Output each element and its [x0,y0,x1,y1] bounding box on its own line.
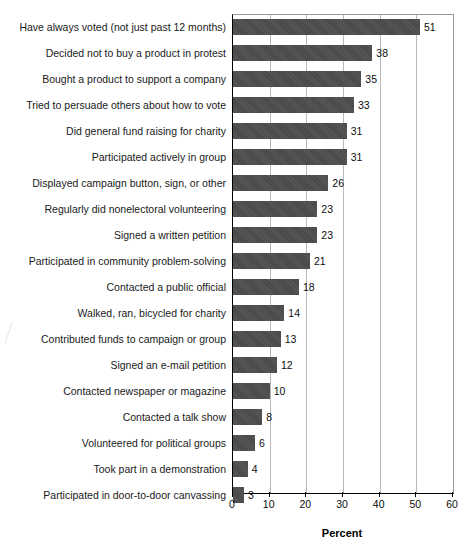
category-label: Contacted newspaper or magazine [63,378,226,404]
bar-value-label: 23 [317,227,333,243]
bar-row: Took part in a demonstration4 [0,456,476,482]
bar [233,331,281,347]
bar-container: 18 [233,279,299,295]
bar-row: Did general fund raising for charity31 [0,118,476,144]
category-label: Signed an e-mail petition [110,352,226,378]
bar-row: Contributed funds to campaign or group13 [0,326,476,352]
bar-value-label: 51 [420,19,436,35]
bar-container: 31 [233,149,347,165]
bar-container: 14 [233,305,284,321]
category-label: Contacted a talk show [123,404,226,430]
bar-row: Tried to persuade others about how to vo… [0,92,476,118]
category-label: Displayed campaign button, sign, or othe… [32,170,226,196]
bar-container: 33 [233,97,354,113]
x-tick-mark-60 [452,492,453,497]
bar-value-label: 21 [310,253,326,269]
bar [233,123,347,139]
bar-value-label: 31 [347,123,363,139]
x-axis-title: Percent [232,527,452,539]
x-tick-label: 0 [217,498,247,510]
x-tick-label: 20 [290,498,320,510]
category-label: Volunteered for political groups [82,430,226,456]
category-label: Signed a written petition [114,222,226,248]
bar [233,435,255,451]
bar-value-label: 18 [299,279,315,295]
x-tick-mark-50 [415,492,416,497]
bar [233,305,284,321]
bar-value-label: 14 [284,305,300,321]
category-label: Bought a product to support a company [42,66,226,92]
bar [233,175,328,191]
bar-container: 6 [233,435,255,451]
bar-row: Participated in community problem-solvin… [0,248,476,274]
bar-container: 13 [233,331,281,347]
category-label: Took part in a demonstration [94,456,227,482]
bar-row: Bought a product to support a company35 [0,66,476,92]
bar [233,201,317,217]
bar-value-label: 10 [270,383,286,399]
bar [233,149,347,165]
bar-value-label: 26 [328,175,344,191]
category-label: Walked, ran, bicycled for charity [78,300,226,326]
bar [233,45,372,61]
x-tick-label: 10 [254,498,284,510]
bar-container: 4 [233,461,248,477]
category-label: Participated actively in group [92,144,226,170]
bar [233,409,262,425]
bar-value-label: 13 [281,331,297,347]
bar-value-label: 35 [361,71,377,87]
bar-container: 35 [233,71,361,87]
bar-rows: Have always voted (not just past 12 mont… [0,14,476,508]
bar-row: Contacted a public official18 [0,274,476,300]
category-label: Participated in door-to-door canvassing [43,482,226,508]
bar [233,461,248,477]
bar [233,357,277,373]
category-label: Regularly did nonelectoral volunteering [44,196,226,222]
bar-row: Walked, ran, bicycled for charity14 [0,300,476,326]
bar [233,19,420,35]
bar-value-label: 38 [372,45,388,61]
bar [233,253,310,269]
bar-value-label: 12 [277,357,293,373]
x-tick-mark-20 [305,492,306,497]
bar-container: 8 [233,409,262,425]
bar [233,383,270,399]
bar-row: Signed a written petition23 [0,222,476,248]
bar-row: Contacted newspaper or magazine10 [0,378,476,404]
category-label: Participated in community problem-solvin… [29,248,226,274]
x-tick-mark-40 [379,492,380,497]
bar-value-label: 6 [255,435,265,451]
bar [233,279,299,295]
bar [233,227,317,243]
bar-row: Contacted a talk show8 [0,404,476,430]
bar-container: 38 [233,45,372,61]
bar-value-label: 8 [262,409,272,425]
category-label: Contributed funds to campaign or group [41,326,226,352]
bar-container: 31 [233,123,347,139]
x-tick-mark-30 [342,492,343,497]
bar [233,97,354,113]
category-label: Decided not to buy a product in protest [46,40,226,66]
bar-row: Volunteered for political groups6 [0,430,476,456]
bar-container: 51 [233,19,420,35]
bar-row: Decided not to buy a product in protest3… [0,40,476,66]
x-tick-mark-10 [269,492,270,497]
bar-row: Regularly did nonelectoral volunteering2… [0,196,476,222]
bar-value-label: 23 [317,201,333,217]
bar-row: Have always voted (not just past 12 mont… [0,14,476,40]
bar-container: 23 [233,227,317,243]
bar-value-label: 4 [248,461,258,477]
x-tick-label: 50 [400,498,430,510]
bar-value-label: 31 [347,149,363,165]
category-label: Contacted a public official [107,274,226,300]
x-tick-label: 40 [364,498,394,510]
bar-container: 12 [233,357,277,373]
category-label: Have always voted (not just past 12 mont… [19,14,226,40]
bar-container: 26 [233,175,328,191]
bar-value-label: 33 [354,97,370,113]
x-tick-mark-0 [232,492,233,497]
bar-chart: Have always voted (not just past 12 mont… [0,0,476,552]
x-tick-label: 30 [327,498,357,510]
bar-container: 21 [233,253,310,269]
bar [233,71,361,87]
